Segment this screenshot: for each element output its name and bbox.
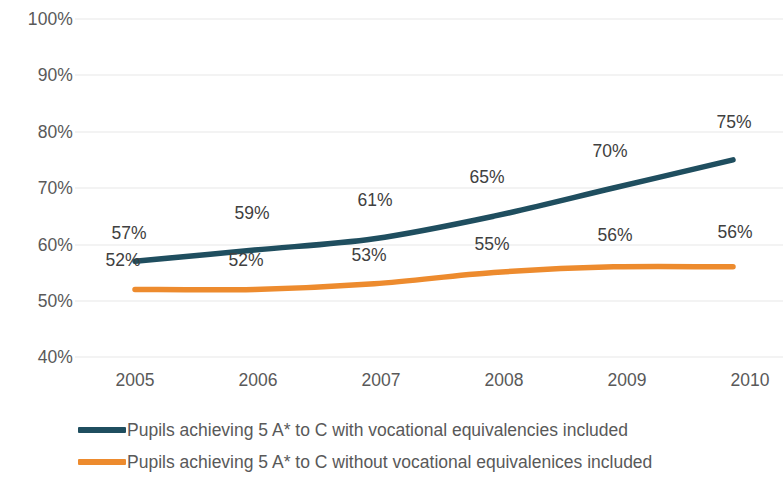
legend-item-orange[interactable]: Pupils achieving 5 A* to C without vocat… bbox=[0, 446, 783, 478]
data-label-blue-2005: 57% bbox=[94, 223, 164, 244]
legend-label-orange: Pupils achieving 5 A* to C without vocat… bbox=[127, 452, 652, 473]
y-axis-tick-80: 80% bbox=[11, 122, 73, 143]
data-label-blue-2010: 75% bbox=[699, 112, 769, 133]
line-chart: 100% 90% 80% 70% 60% 50% 40% 2005 2006 2… bbox=[0, 0, 783, 481]
data-label-orange-2006: 52% bbox=[211, 250, 281, 271]
y-axis-tick-100: 100% bbox=[11, 9, 73, 30]
data-label-blue-2007: 61% bbox=[340, 190, 410, 211]
y-axis-tick-70: 70% bbox=[11, 178, 73, 199]
data-label-blue-2008: 65% bbox=[452, 167, 522, 188]
y-axis-tick-60: 60% bbox=[11, 235, 73, 256]
x-axis-tick-2009: 2009 bbox=[582, 370, 672, 391]
x-axis-tick-2005: 2005 bbox=[90, 370, 180, 391]
legend-swatch-orange-icon bbox=[78, 459, 126, 465]
y-axis-tick-50: 50% bbox=[11, 291, 73, 312]
x-axis-tick-2008: 2008 bbox=[459, 370, 549, 391]
legend-label-blue: Pupils achieving 5 A* to C with vocation… bbox=[127, 420, 628, 441]
data-label-orange-2010: 56% bbox=[700, 222, 770, 243]
data-label-orange-2005: 52% bbox=[88, 250, 158, 271]
data-label-orange-2009: 56% bbox=[580, 225, 650, 246]
legend-swatch-blue-icon bbox=[78, 427, 126, 433]
x-axis-tick-2010: 2010 bbox=[705, 370, 783, 391]
y-axis-tick-40: 40% bbox=[11, 347, 73, 368]
legend-item-blue[interactable]: Pupils achieving 5 A* to C with vocation… bbox=[0, 414, 783, 446]
data-label-orange-2007: 53% bbox=[334, 245, 404, 266]
data-label-blue-2009: 70% bbox=[575, 141, 645, 162]
x-axis-tick-2006: 2006 bbox=[213, 370, 303, 391]
x-axis-tick-2007: 2007 bbox=[336, 370, 426, 391]
chart-legend: Pupils achieving 5 A* to C with vocation… bbox=[0, 414, 783, 478]
data-label-blue-2006: 59% bbox=[217, 203, 287, 224]
gridlines bbox=[75, 19, 783, 357]
data-label-orange-2008: 55% bbox=[457, 234, 527, 255]
y-axis-tick-90: 90% bbox=[11, 65, 73, 86]
